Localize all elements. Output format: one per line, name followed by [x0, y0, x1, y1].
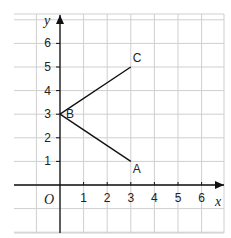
y-tick-label: 6: [44, 36, 51, 50]
x-tick-label: 1: [80, 191, 87, 205]
y-tick-label: 3: [44, 107, 51, 121]
x-tick-label: 6: [198, 191, 205, 205]
y-tick-label: 5: [44, 60, 51, 74]
y-tick-label: 4: [44, 84, 51, 98]
y-tick-label: 2: [44, 131, 51, 145]
x-axis: [14, 181, 224, 189]
y-axis-label: y: [42, 13, 51, 28]
origin-label: O: [44, 192, 54, 207]
x-axis-label: x: [214, 194, 222, 209]
point-label-C: C: [133, 51, 142, 65]
x-tick-label: 5: [175, 191, 182, 205]
point-label-A: A: [133, 162, 141, 176]
x-tick-label: 2: [104, 191, 111, 205]
x-axis-arrow-icon: [215, 181, 224, 189]
point-label-B: B: [66, 107, 74, 121]
x-tick-label: 3: [127, 191, 134, 205]
x-tick-label: 4: [151, 191, 158, 205]
y-axis: [56, 15, 64, 233]
y-tick-label: 1: [44, 154, 51, 168]
coordinate-grid: 123456123456 x y O ABC: [0, 0, 231, 238]
